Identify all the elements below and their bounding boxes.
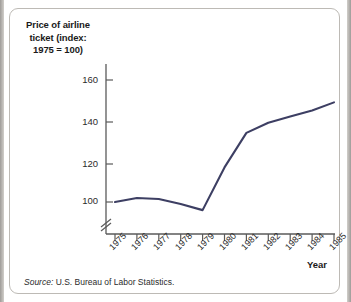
figure-card: Price of airline ticket (index: 1975 = 1…: [9, 8, 340, 294]
data-series-line: [115, 102, 334, 210]
scan-edge-left: [0, 0, 4, 302]
x-axis-title: Year: [307, 259, 327, 270]
source-label: Source:: [24, 277, 53, 287]
y-axis-ticks: [106, 80, 113, 202]
figure-screenshot: Price of airline ticket (index: 1975 = 1…: [0, 0, 351, 302]
scan-edge-right: [347, 0, 351, 302]
source-text: U.S. Bureau of Labor Statistics.: [53, 277, 174, 287]
source-note: Source: U.S. Bureau of Labor Statistics.: [24, 277, 174, 287]
chart-svg: [10, 9, 341, 295]
chart-plot-area: Price of airline ticket (index: 1975 = 1…: [10, 9, 341, 295]
